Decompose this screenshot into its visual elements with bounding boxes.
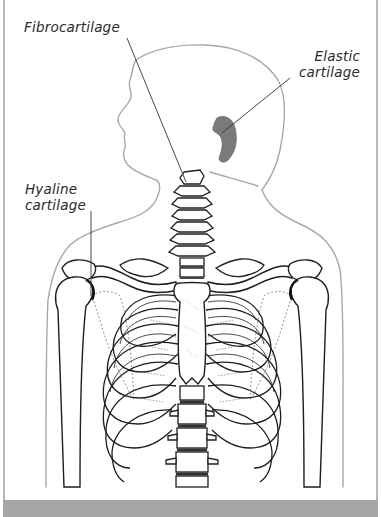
ear-elastic-cartilage <box>213 116 236 162</box>
label-elastic-line1: Elastic <box>298 48 360 64</box>
sternum <box>174 283 210 385</box>
leader-lines <box>91 38 290 296</box>
figure-frame: Fibrocartilage Elastic cartilage Hyaline… <box>0 0 381 517</box>
label-hyaline-cartilage: Hyaline cartilage <box>25 181 86 213</box>
label-fibrocartilage: Fibrocartilage <box>24 19 120 35</box>
label-elastic-line2: cartilage <box>298 64 360 80</box>
label-elastic-cartilage: Elastic cartilage <box>298 48 360 80</box>
leader-elastic-cartilage <box>222 78 290 133</box>
label-hyaline-line1: Hyaline <box>25 181 86 197</box>
leader-fibrocartilage <box>127 38 186 182</box>
label-hyaline-line2: cartilage <box>25 197 86 213</box>
thoracic-vertebrae <box>166 386 218 487</box>
cervical-vertebrae <box>169 170 215 278</box>
